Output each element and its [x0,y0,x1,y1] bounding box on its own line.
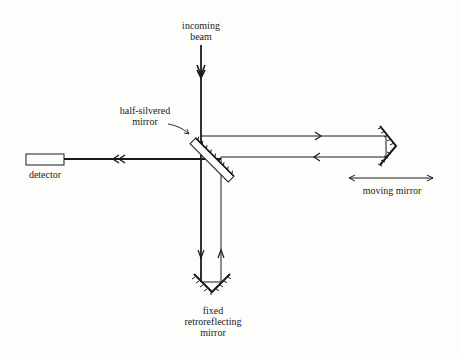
detector-label: detector [24,169,66,180]
label-line: retroreflecting [177,316,249,327]
label-line: incoming [176,20,226,31]
half-silvered-mirror-label: half-silvered mirror [110,105,180,127]
detector-box [26,154,64,165]
fixed-mirror-label: fixed retroreflecting mirror [177,305,249,338]
label-line: beam [176,31,226,42]
moving-mirror-icon [378,126,396,166]
interferometer-diagram: incoming beam half-silvered mirror detec… [0,0,459,357]
fixed-mirror-icon [192,274,231,295]
label-line: fixed [177,305,249,316]
label-line: mirror [110,116,180,127]
label-line: mirror [177,327,249,338]
diagram-drawing [0,0,459,357]
label-line: half-silvered [110,105,180,116]
moving-mirror-label: moving mirror [352,185,432,196]
incoming-beam-label: incoming beam [176,20,226,42]
